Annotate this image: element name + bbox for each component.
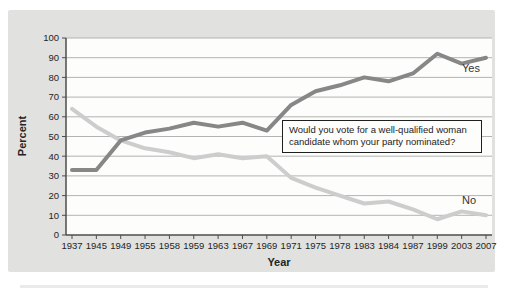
x-tick-label: 1937: [61, 240, 82, 251]
y-tick-label: 10: [48, 210, 59, 221]
survey-question-box: Would you vote for a well-qualified woma…: [282, 120, 482, 153]
y-tick-label: 100: [43, 32, 59, 43]
x-tick-label: 1971: [281, 240, 302, 251]
x-tick-label: 1984: [378, 240, 399, 251]
x-axis-title: Year: [66, 256, 492, 268]
x-tick-label: 2003: [451, 240, 472, 251]
page-shadow: [20, 285, 488, 288]
figure: 0102030405060708090100193719451949195519…: [0, 0, 507, 289]
x-tick-label: 1975: [305, 240, 326, 251]
x-tick-label: 1978: [329, 240, 350, 251]
y-tick-label: 0: [54, 229, 59, 240]
x-tick-label: 2007: [475, 240, 496, 251]
series-label-yes: Yes: [462, 62, 480, 74]
x-tick-label: 1987: [402, 240, 423, 251]
x-tick-label: 1969: [256, 240, 277, 251]
y-tick-label: 40: [48, 151, 59, 162]
y-tick-label: 30: [48, 170, 59, 181]
y-tick-label: 80: [48, 72, 59, 83]
y-tick-label: 70: [48, 91, 59, 102]
series-label-no: No: [462, 194, 476, 206]
y-tick-label: 90: [48, 52, 59, 63]
x-tick-label: 1945: [86, 240, 107, 251]
x-tick-label: 1963: [208, 240, 229, 251]
x-tick-label: 1983: [354, 240, 375, 251]
y-tick-label: 20: [48, 190, 59, 201]
x-tick-label: 1955: [134, 240, 155, 251]
x-tick-label: 1958: [159, 240, 180, 251]
x-tick-label: 1967: [232, 240, 253, 251]
y-tick-label: 50: [48, 131, 59, 142]
y-tick-label: 60: [48, 111, 59, 122]
y-axis-title: Percent: [16, 114, 28, 158]
x-tick-label: 1999: [427, 240, 448, 251]
x-tick-label: 1949: [110, 240, 131, 251]
x-tick-label: 1959: [183, 240, 204, 251]
